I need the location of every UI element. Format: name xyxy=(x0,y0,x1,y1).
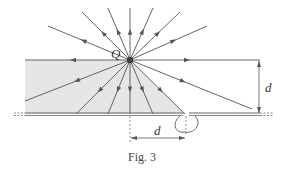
field-arrow-icon xyxy=(170,40,176,44)
point-charge-Q xyxy=(127,57,132,62)
field-arrow-icon xyxy=(139,29,143,35)
field-line xyxy=(82,12,130,60)
field-line xyxy=(130,26,207,60)
field-arrow-icon xyxy=(81,40,87,44)
hole-loop-curve xyxy=(175,116,198,132)
vertical-distance-label: d xyxy=(265,80,272,95)
horizontal-distance-label: d xyxy=(154,123,161,138)
shaded-region xyxy=(25,60,185,114)
field-line-diagram: d d Q Fig. 3 xyxy=(0,0,283,169)
field-arrow-icon xyxy=(179,78,185,82)
figure-caption: Fig. 3 xyxy=(128,150,156,164)
field-arrow-icon xyxy=(117,29,121,35)
conducting-plate xyxy=(14,113,273,116)
field-line xyxy=(130,12,180,60)
vertical-dimension-arrow xyxy=(257,61,261,113)
charge-label: Q xyxy=(111,46,121,61)
field-arrow-icon xyxy=(184,58,190,62)
field-arrow-icon xyxy=(128,29,132,35)
